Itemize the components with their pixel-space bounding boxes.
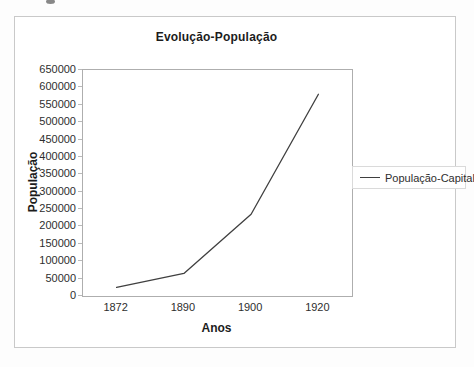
y-tick-mark [78, 156, 82, 157]
x-tick-label: 1890 [151, 301, 215, 314]
legend-line-sample-icon [360, 177, 380, 178]
y-tick-mark [78, 191, 82, 192]
legend: População-Capital [352, 166, 466, 189]
y-tick-mark [78, 260, 82, 261]
y-tick-label: 400000 [15, 150, 76, 162]
y-tick-label: 350000 [15, 167, 76, 179]
y-tick-label: 200000 [15, 219, 76, 231]
y-tick-mark [78, 139, 82, 140]
y-tick-mark [78, 243, 82, 244]
x-tick-label: 1920 [285, 301, 349, 314]
y-tick-label: 0 [15, 289, 76, 301]
x-tick-label: 1872 [84, 301, 148, 314]
y-tick-label: 650000 [15, 63, 76, 75]
x-axis-title: Anos [82, 321, 351, 335]
x-tick-label: 1900 [218, 301, 282, 314]
y-tick-mark [78, 69, 82, 70]
y-tick-mark [78, 225, 82, 226]
y-tick-mark [78, 295, 82, 296]
series-line [117, 94, 319, 287]
y-tick-mark [78, 104, 82, 105]
scan-artifact-dot [46, 0, 55, 4]
y-tick-label: 100000 [15, 254, 76, 266]
y-tick-mark [78, 86, 82, 87]
y-tick-label: 300000 [15, 185, 76, 197]
legend-series-label: População-Capital [385, 172, 474, 184]
series-line-svg [83, 70, 352, 296]
y-tick-label: 50000 [15, 272, 76, 284]
y-tick-mark [78, 173, 82, 174]
y-tick-mark [78, 121, 82, 122]
y-tick-label: 600000 [15, 80, 76, 92]
scanned-chart-page: Evolução-População População 05000010000… [0, 0, 474, 367]
chart-frame: Evolução-População População 05000010000… [14, 16, 456, 348]
y-tick-mark [78, 208, 82, 209]
chart-title: Evolução-População [82, 30, 351, 44]
plot-area [82, 69, 353, 297]
y-tick-mark [78, 278, 82, 279]
y-tick-label: 150000 [15, 237, 76, 249]
y-tick-label: 550000 [15, 98, 76, 110]
y-tick-label: 450000 [15, 133, 76, 145]
y-tick-label: 250000 [15, 202, 76, 214]
y-tick-label: 500000 [15, 115, 76, 127]
